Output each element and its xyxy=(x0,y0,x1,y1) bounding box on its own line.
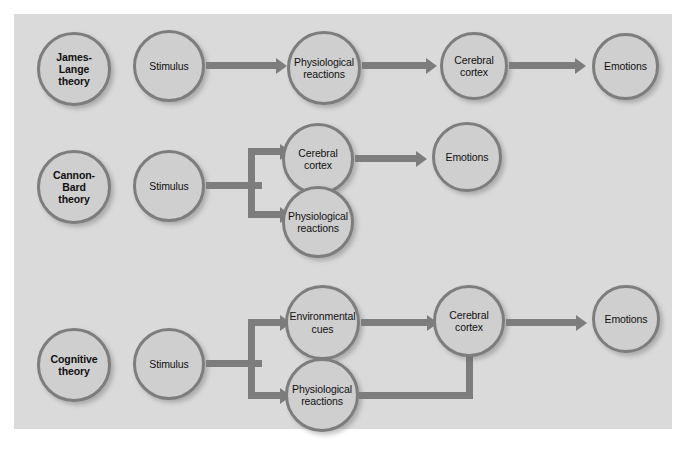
node-james-lange-theory[interactable]: James-Lange theory xyxy=(37,32,111,106)
node-label: Stimulus xyxy=(145,180,192,192)
node-label: Cerebral cortex xyxy=(294,147,341,171)
node-label: Physiological reactions xyxy=(288,383,356,407)
edge-cg-physio-to-cortex-h xyxy=(359,392,473,399)
arrowhead-jl-2 xyxy=(426,58,437,74)
node-jl-cerebral-cortex[interactable]: Cerebral cortex xyxy=(440,32,508,100)
node-cb-physiological-reactions[interactable]: Physiological reactions xyxy=(282,186,354,258)
node-label: Physiological reactions xyxy=(284,210,352,234)
edge-cb-branch-riser xyxy=(248,148,255,218)
node-label: Emotions xyxy=(600,60,651,72)
node-label: Physiological reactions xyxy=(290,56,358,80)
edge-jl-stimulus-to-physio xyxy=(206,62,278,69)
edge-cg-stimulus-to-physio xyxy=(248,392,282,399)
diagram-canvas: James-Lange theory Stimulus Physiologica… xyxy=(0,0,688,450)
node-jl-physiological-reactions[interactable]: Physiological reactions xyxy=(287,31,361,105)
node-label: Stimulus xyxy=(145,60,192,72)
edge-cg-stimulus-to-envcues xyxy=(248,319,282,326)
node-label: James-Lange theory xyxy=(40,51,108,87)
edge-cb-stimulus-to-cortex xyxy=(248,148,282,155)
node-label: Environmental cues xyxy=(286,310,360,334)
node-label: Stimulus xyxy=(145,358,192,370)
node-cg-emotions[interactable]: Emotions xyxy=(592,285,660,353)
diagram-panel: James-Lange theory Stimulus Physiologica… xyxy=(14,14,672,429)
edge-cg-physio-to-cortex-v xyxy=(466,350,473,397)
arrowhead-cb-3 xyxy=(416,151,427,167)
arrowhead-cg-5 xyxy=(576,315,587,331)
node-cb-emotions[interactable]: Emotions xyxy=(432,122,502,192)
node-cg-physiological-reactions[interactable]: Physiological reactions xyxy=(285,358,359,432)
arrowhead-jl-3 xyxy=(575,58,586,74)
node-label: Cannon-Bard theory xyxy=(40,169,108,205)
edge-jl-physio-to-cortex xyxy=(362,62,428,69)
node-cannon-bard-theory[interactable]: Cannon-Bard theory xyxy=(37,150,111,224)
node-jl-emotions[interactable]: Emotions xyxy=(592,33,659,100)
node-jl-stimulus[interactable]: Stimulus xyxy=(133,30,205,102)
node-cognitive-theory[interactable]: Cognitive theory xyxy=(37,328,111,402)
node-cb-cerebral-cortex[interactable]: Cerebral cortex xyxy=(282,123,354,195)
node-cb-stimulus[interactable]: Stimulus xyxy=(133,150,205,222)
node-cg-stimulus[interactable]: Stimulus xyxy=(133,328,205,400)
edge-cg-cortex-to-emotions xyxy=(506,319,578,326)
node-label: Cerebral cortex xyxy=(450,54,497,78)
node-cg-environmental-cues[interactable]: Environmental cues xyxy=(285,285,360,360)
node-label: Cerebral cortex xyxy=(445,309,492,333)
node-label: Emotions xyxy=(601,313,652,325)
edge-cg-branch-riser xyxy=(248,319,255,399)
edge-cg-envcues-to-cortex xyxy=(361,319,429,326)
edge-cb-cortex-to-emotions xyxy=(355,155,418,162)
edge-cb-stimulus-to-physio xyxy=(248,211,282,218)
edge-jl-cortex-to-emotions xyxy=(509,62,577,69)
arrowhead-jl-1 xyxy=(276,58,287,74)
node-label: Emotions xyxy=(442,151,493,163)
node-cg-cerebral-cortex[interactable]: Cerebral cortex xyxy=(433,285,505,357)
node-label: Cognitive theory xyxy=(47,353,102,377)
